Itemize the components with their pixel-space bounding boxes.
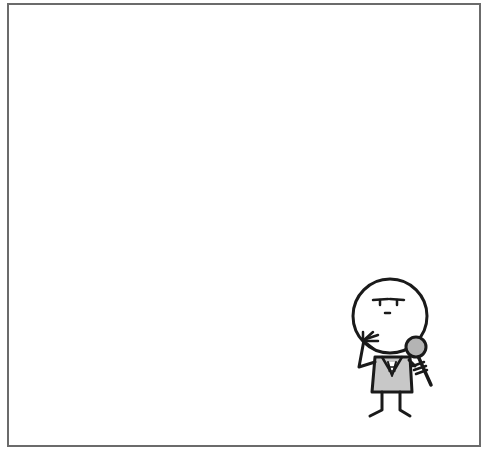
left-leg [370, 392, 382, 416]
stick-figure-illustration [0, 0, 492, 466]
right-leg [400, 392, 410, 416]
